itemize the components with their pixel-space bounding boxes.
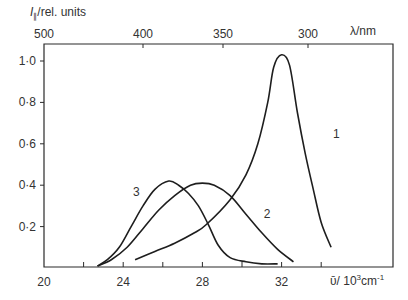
y-axis-label: I∥/rel. units (30, 6, 86, 21)
top-tick-label: 500 (34, 27, 54, 41)
curve-label-3: 3 (133, 185, 140, 199)
y-tick-label: 0·2 (19, 220, 37, 234)
y-tick-label: 0·4 (19, 178, 37, 192)
plot-frame (44, 44, 393, 267)
x-tick-label: 20 (37, 275, 51, 289)
curve-label-2: 2 (264, 207, 271, 221)
top-tick-label: 400 (133, 27, 153, 41)
curve-1 (135, 55, 331, 260)
curve-3 (97, 181, 277, 266)
y-tick-label: 0·8 (19, 95, 37, 109)
spectrum-chart: 0·20·40·60·81·020242832500400350300123 (0, 0, 408, 300)
top-axis-unit-label: λ/nm (350, 25, 376, 37)
top-tick-label: 300 (298, 27, 318, 41)
x-tick-label: 32 (275, 275, 289, 289)
x-axis-label: ῡ/ 103cm-1 (330, 274, 384, 287)
x-tick-label: 24 (117, 275, 131, 289)
y-tick-label: 1·0 (19, 54, 37, 68)
curve-2 (97, 183, 293, 266)
y-tick-label: 0·6 (19, 137, 37, 151)
top-tick-label: 350 (213, 27, 233, 41)
curve-label-1: 1 (333, 127, 340, 141)
x-tick-label: 28 (196, 275, 210, 289)
